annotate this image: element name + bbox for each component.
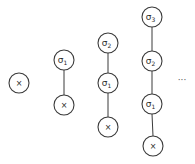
ellipsis: ···	[178, 75, 187, 85]
chain-node-col4-sigma3: σ3	[142, 7, 162, 27]
chain-node-col4-sigma2: σ2	[142, 51, 162, 71]
nodes: ×σ1×σ2σ1×σ3σ2σ1×	[9, 7, 163, 156]
chain-node-col4-sigma1: σ1	[142, 94, 162, 114]
chain-edge	[152, 114, 153, 136]
diagram-canvas: ×σ1×σ2σ1×σ3σ2σ1× ···	[0, 0, 195, 164]
chain-node-col3-sigma1: σ1	[98, 73, 118, 93]
node-label: ×	[105, 123, 112, 132]
node-label: ×	[16, 79, 23, 88]
node-label: ×	[61, 101, 68, 110]
chain-node-col3-sigma2: σ2	[98, 33, 118, 53]
chain-node-col4-x: ×	[143, 136, 163, 156]
chain-node-col3-x: ×	[98, 117, 118, 137]
chain-node-col1-x: ×	[9, 73, 29, 93]
chain-node-col2-sigma1: σ1	[54, 50, 74, 70]
chain-node-col2-x: ×	[54, 95, 74, 115]
node-label: ×	[150, 142, 157, 151]
